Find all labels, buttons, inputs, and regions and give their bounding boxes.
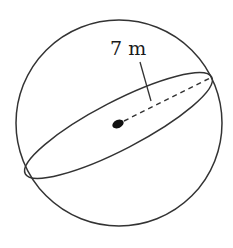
radius-dashed-line	[124, 77, 212, 121]
radius-label: 7 m	[110, 37, 146, 59]
label-leader-line	[140, 62, 151, 101]
center-point	[111, 118, 125, 130]
sphere-diagram: 7 m	[0, 0, 233, 248]
